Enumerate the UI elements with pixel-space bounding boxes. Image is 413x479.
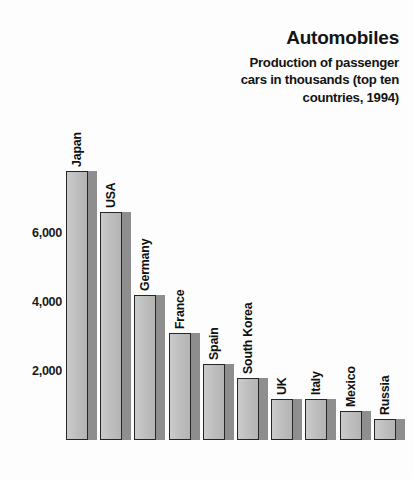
bar-uk[interactable] bbox=[271, 399, 293, 440]
bar-italy[interactable] bbox=[305, 399, 327, 440]
bar-group[interactable]: Germany bbox=[134, 285, 165, 440]
bar-label-south-korea: South Korea bbox=[241, 302, 255, 373]
bar-group[interactable]: South Korea bbox=[237, 368, 268, 440]
y-axis: 2,0004,0006,000 bbox=[0, 0, 62, 479]
bar-south-korea[interactable] bbox=[237, 378, 259, 440]
bar-spain[interactable] bbox=[203, 364, 225, 440]
bar-label-uk: UK bbox=[275, 377, 289, 395]
bar-group[interactable]: UK bbox=[271, 389, 302, 440]
bar-russia[interactable] bbox=[374, 419, 396, 440]
bar-label-russia: Russia bbox=[378, 376, 392, 415]
bar-group[interactable]: Russia bbox=[374, 409, 405, 440]
bar-group[interactable]: France bbox=[169, 323, 200, 440]
bar-label-spain: Spain bbox=[207, 327, 221, 360]
bar-label-germany: Germany bbox=[138, 239, 152, 291]
y-axis-tick-2000: 2,000 bbox=[6, 364, 62, 378]
bar-germany[interactable] bbox=[134, 295, 156, 440]
bar-label-japan: Japan bbox=[70, 132, 84, 167]
bar-series: JapanUSAGermanyFranceSpainSouth KoreaUKI… bbox=[62, 0, 413, 479]
bar-usa[interactable] bbox=[100, 212, 122, 440]
bar-mexico[interactable] bbox=[340, 411, 362, 440]
bar-label-mexico: Mexico bbox=[344, 366, 358, 407]
bar-label-italy: Italy bbox=[309, 371, 323, 395]
bar-group[interactable]: Japan bbox=[66, 161, 97, 440]
bar-group[interactable]: USA bbox=[100, 202, 131, 440]
bar-group[interactable]: Italy bbox=[305, 389, 336, 440]
y-axis-tick-4000: 4,000 bbox=[6, 295, 62, 309]
y-axis-tick-6000: 6,000 bbox=[6, 226, 62, 240]
bar-label-usa: USA bbox=[104, 182, 118, 208]
bar-group[interactable]: Spain bbox=[203, 354, 234, 440]
bar-france[interactable] bbox=[169, 333, 191, 440]
bar-group[interactable]: Mexico bbox=[340, 401, 371, 440]
plot-area: 2,0004,0006,000 JapanUSAGermanyFranceSpa… bbox=[0, 0, 413, 479]
bar-label-france: France bbox=[173, 289, 187, 328]
chart-figure: Automobiles Production of passenger cars… bbox=[0, 0, 413, 479]
bar-japan[interactable] bbox=[66, 171, 88, 440]
